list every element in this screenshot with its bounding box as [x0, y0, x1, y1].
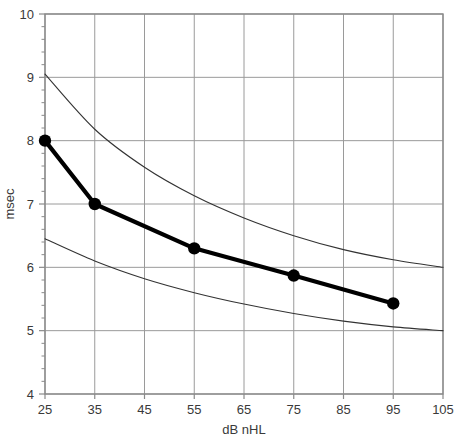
x-tick-labels: 2535455565758595105 — [38, 402, 454, 417]
latency-intensity-chart: 2535455565758595105 45678910 dB nHL msec — [0, 0, 465, 439]
y-tick-label: 7 — [27, 197, 34, 212]
x-tick-label: 75 — [287, 402, 301, 417]
data-point-marker — [387, 297, 399, 309]
data-point-marker — [288, 269, 300, 281]
x-tick-label: 35 — [88, 402, 102, 417]
data-point-marker — [89, 198, 101, 210]
y-tick-label: 8 — [27, 133, 34, 148]
x-axis-title: dB nHL — [222, 422, 265, 437]
x-tick-label: 105 — [432, 402, 454, 417]
chart-svg: 2535455565758595105 45678910 dB nHL msec — [0, 0, 465, 439]
y-tick-label: 5 — [27, 323, 34, 338]
x-tick-label: 45 — [137, 402, 151, 417]
chart-background — [0, 0, 465, 439]
y-tick-label: 4 — [27, 387, 34, 402]
x-tick-label: 85 — [336, 402, 350, 417]
y-tick-label: 9 — [27, 70, 34, 85]
data-point-marker — [39, 134, 51, 146]
x-tick-label: 95 — [386, 402, 400, 417]
y-tick-label: 6 — [27, 260, 34, 275]
x-tick-label: 25 — [38, 402, 52, 417]
data-point-marker — [188, 242, 200, 254]
x-tick-label: 65 — [237, 402, 251, 417]
x-tick-label: 55 — [187, 402, 201, 417]
y-axis-title: msec — [2, 188, 17, 220]
y-tick-label: 10 — [20, 7, 34, 22]
